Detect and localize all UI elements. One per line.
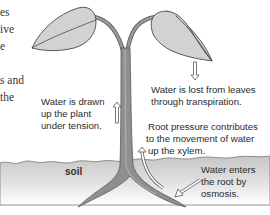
body-text-fragment: es ive e s and the (0, 6, 24, 103)
tension-label-line: Water is drawn (41, 96, 105, 107)
right-leaf (151, 11, 212, 61)
osmosis-label-line: the root by (201, 176, 247, 187)
tension-label: Water is drawn up the plant under tensio… (41, 96, 105, 131)
plant-water-transport-diagram: es ive e s and the (0, 0, 270, 215)
body-text-line: e (0, 40, 5, 52)
root-pressure-label: Root pressure contributes to the movemen… (146, 121, 258, 156)
body-text-line: the (0, 91, 14, 103)
tension-label-line: under tension. (41, 120, 102, 131)
osmosis-label-line: osmosis. (201, 188, 239, 199)
root-pressure-label-line: Root pressure contributes (148, 121, 258, 132)
soil-label: soil (65, 166, 82, 177)
transpiration-arrow-down-icon (191, 62, 199, 80)
transpiration-label-line: through transpiration. (151, 96, 242, 107)
left-leaf (32, 7, 96, 50)
tension-label-line: up the plant (41, 108, 91, 119)
tension-arrow-up-icon (113, 102, 121, 123)
body-text-line: es (0, 6, 10, 18)
transpiration-label: Water is lost from leaves through transp… (151, 84, 256, 107)
osmosis-label-line: Water enters (201, 164, 256, 175)
body-text-line: ive (0, 23, 14, 35)
body-text-line: s and (0, 74, 24, 86)
root-pressure-label-line: up the xylem. (148, 145, 205, 156)
root-pressure-label-line: to the movement of water (146, 133, 255, 144)
transpiration-label-line: Water is lost from leaves (151, 84, 256, 95)
